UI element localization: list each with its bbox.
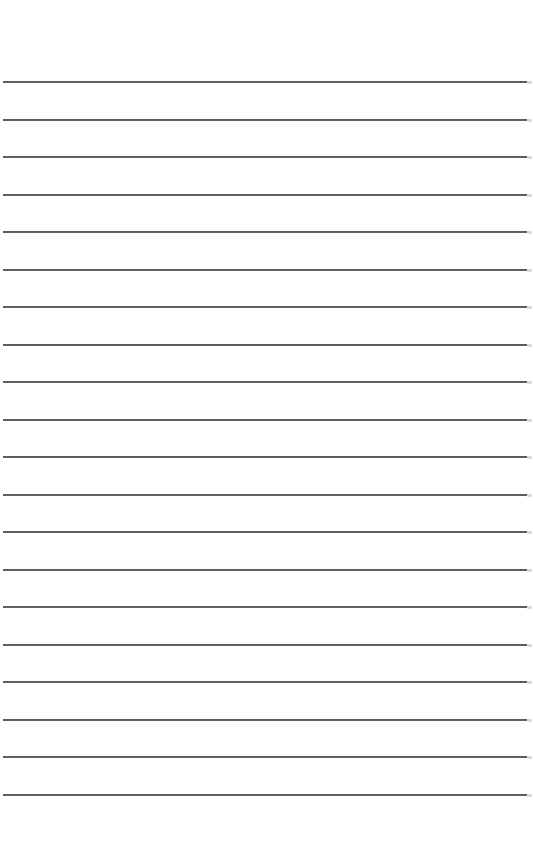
ruled-line-edge [527,306,532,309]
ruled-line-edge [527,119,532,122]
ruled-line-edge [527,644,532,647]
ruled-line [3,269,527,271]
ruled-line [3,81,527,83]
ruled-line [3,456,527,458]
ruled-line-edge [527,719,532,722]
ruled-line-edge [527,381,532,384]
ruled-line-edge [527,269,532,272]
ruled-line [3,306,527,308]
ruled-line [3,644,527,646]
ruled-line [3,344,527,346]
ruled-line [3,794,527,796]
ruled-line [3,681,527,683]
ruled-line [3,381,527,383]
ruled-line-edge [527,606,532,609]
ruled-line-edge [527,756,532,759]
ruled-line [3,194,527,196]
ruled-line-edge [527,794,532,797]
ruled-line [3,156,527,158]
ruled-line [3,531,527,533]
ruled-line-edge [527,531,532,534]
ruled-line-edge [527,156,532,159]
ruled-line-edge [527,494,532,497]
ruled-line-edge [527,231,532,234]
ruled-line-edge [527,419,532,422]
ruled-line [3,419,527,421]
ruled-line-edge [527,456,532,459]
ruled-line-edge [527,81,532,84]
ruled-line [3,119,527,121]
ruled-line-edge [527,344,532,347]
ruled-line-edge [527,194,532,197]
ruled-line-edge [527,681,532,684]
ruled-line [3,494,527,496]
ruled-line [3,569,527,571]
ruled-line-edge [527,569,532,572]
lined-paper-page [0,0,533,864]
ruled-line [3,606,527,608]
ruled-line [3,231,527,233]
ruled-line [3,756,527,758]
ruled-line [3,719,527,721]
